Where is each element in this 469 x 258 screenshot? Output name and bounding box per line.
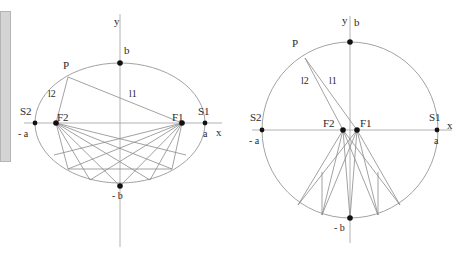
circle-label-minus-b: - b xyxy=(334,223,345,233)
ellipse-point-minus-b xyxy=(117,183,123,189)
circle-fan-from-F2 xyxy=(298,130,400,218)
ellipse-fan-from-F1 xyxy=(54,123,182,186)
circle-label-P: P xyxy=(292,38,298,49)
circle-label-S1: S1 xyxy=(429,112,441,123)
ellipse-point-b xyxy=(117,60,123,66)
ellipse-figure-group xyxy=(24,14,222,247)
circle-label-b: b xyxy=(354,17,360,28)
ellipse-label-b: b xyxy=(124,45,130,56)
circle-point-minus-b xyxy=(347,215,353,221)
circle-label-minus-a: - a xyxy=(249,136,259,146)
ellipse-label-x-axis: x xyxy=(216,127,222,138)
circle-label-l1: l1 xyxy=(329,76,337,86)
circle-label-a: a xyxy=(434,136,438,146)
circle-figure-group xyxy=(252,16,452,243)
circle-label-l2: l2 xyxy=(301,76,309,86)
ellipse-label-y-axis: y xyxy=(114,16,120,27)
ellipse-label-minus-a: - a xyxy=(18,129,28,139)
circle-point-b xyxy=(347,39,353,45)
ellipse-label-S1: S1 xyxy=(198,106,210,117)
ellipse-label-l1: l1 xyxy=(129,89,137,99)
circle-point-S1 xyxy=(435,128,440,133)
ellipse-label-F1: F1 xyxy=(172,112,184,123)
ellipse-label-minus-b: - b xyxy=(112,191,123,201)
circle-label-S2: S2 xyxy=(250,112,262,123)
ellipse-label-F2: F2 xyxy=(57,112,69,123)
ellipse-point-S2 xyxy=(33,121,38,126)
ellipse-label-P: P xyxy=(63,60,69,71)
ellipse-label-a: a xyxy=(203,129,207,139)
ellipse-point-S1 xyxy=(203,121,208,126)
circle-label-F2: F2 xyxy=(323,118,335,129)
circle-point-F2 xyxy=(340,127,346,133)
circle-point-S2 xyxy=(260,128,265,133)
circle-point-F1 xyxy=(354,127,360,133)
ellipse-label-S2: S2 xyxy=(20,106,32,117)
geometry-figure-canvas xyxy=(0,0,469,258)
ellipse-focal-radius-l1 xyxy=(68,77,182,123)
circle-label-x-axis: x xyxy=(447,120,453,131)
circle-label-F1: F1 xyxy=(360,118,372,129)
ellipse-label-l2: l2 xyxy=(48,89,56,99)
circle-label-y-axis: y xyxy=(342,15,348,26)
